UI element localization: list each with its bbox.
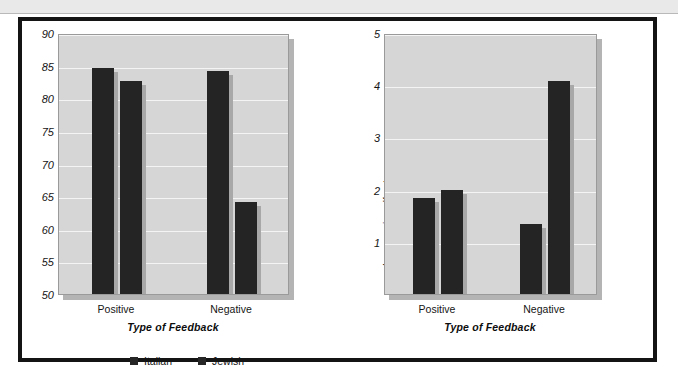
chart-panel-right: Increase in self-esteem 12345 PositiveNe… [356, 21, 653, 358]
x-axis-category-label: Negative [210, 303, 251, 315]
bar-jewish-positive[interactable] [441, 190, 463, 295]
y-axis-ticks-left: 505560657075808590 [26, 34, 54, 295]
chart-legend: ItalianJewish [130, 355, 244, 367]
figure-body: Rating of target 505560657075808590 Posi… [22, 21, 653, 358]
y-axis-tick-label: 80 [42, 94, 54, 105]
legend-label: Italian [144, 355, 172, 367]
page-top-strip [0, 0, 678, 14]
bar-italian-positive[interactable] [92, 68, 114, 295]
y-axis-tick-label: 50 [42, 290, 54, 301]
x-axis-title-right: Type of Feedback [444, 321, 536, 333]
bar-italian-negative[interactable] [520, 224, 542, 295]
gridline [59, 35, 288, 36]
plot-area-right [384, 34, 597, 295]
chart-panel-left: Rating of target 505560657075808590 Posi… [26, 21, 356, 358]
bar-italian-negative[interactable] [207, 71, 229, 295]
y-axis-tick-label: 4 [374, 81, 380, 92]
y-axis-tick-label: 55 [42, 257, 54, 268]
bar-jewish-negative[interactable] [235, 202, 257, 295]
y-axis-tick-label: 3 [374, 133, 380, 144]
y-axis-tick-label: 65 [42, 192, 54, 203]
x-axis-category-label: Negative [523, 303, 564, 315]
legend-swatch-icon [198, 357, 206, 365]
y-axis-tick-label: 70 [42, 160, 54, 171]
bar-italian-positive[interactable] [413, 198, 435, 295]
y-axis-tick-label: 60 [42, 225, 54, 236]
figure-frame: Rating of target 505560657075808590 Posi… [18, 17, 657, 362]
bar-jewish-positive[interactable] [120, 81, 142, 295]
legend-label: Jewish [212, 355, 244, 367]
y-axis-tick-label: 85 [42, 62, 54, 73]
legend-swatch-icon [130, 357, 138, 365]
page-top-rule [0, 13, 678, 14]
y-axis-tick-label: 90 [42, 29, 54, 40]
x-axis-category-label: Positive [419, 303, 456, 315]
x-axis-title-left: Type of Feedback [127, 321, 219, 333]
legend-item-jewish[interactable]: Jewish [198, 355, 244, 367]
y-axis-tick-label: 5 [374, 29, 380, 40]
y-axis-tick-label: 1 [374, 238, 380, 249]
figure-page: Rating of target 505560657075808590 Posi… [0, 0, 678, 382]
y-axis-tick-label: 2 [374, 186, 380, 197]
gridline [385, 35, 596, 36]
y-axis-tick-label: 75 [42, 127, 54, 138]
legend-item-italian[interactable]: Italian [130, 355, 172, 367]
bar-jewish-negative[interactable] [548, 81, 570, 295]
y-axis-ticks-right: 12345 [356, 34, 380, 295]
x-axis-category-label: Positive [98, 303, 135, 315]
plot-area-left [58, 34, 289, 295]
